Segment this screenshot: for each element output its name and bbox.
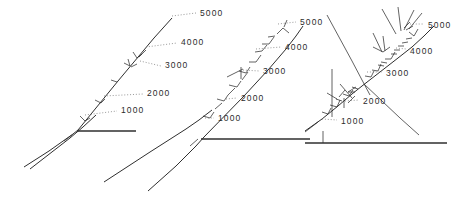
panel-1-label-3000: 3000 bbox=[165, 60, 188, 70]
panel-3-label-2000: 2000 bbox=[363, 96, 386, 106]
panel-1-label-5000: 5000 bbox=[200, 8, 223, 18]
figure-canvas: 5000 4000 3000 2000 1000 5000 4000 3000 … bbox=[0, 0, 457, 203]
panel-1-label-4000: 4000 bbox=[181, 37, 204, 47]
panel-1-label-1000: 1000 bbox=[121, 105, 144, 115]
panel-3-label-3000: 3000 bbox=[386, 68, 409, 78]
panel-2-label-5000: 5000 bbox=[300, 17, 323, 27]
panel-2-label-2000: 2000 bbox=[241, 93, 264, 103]
panel-3-label-4000: 4000 bbox=[410, 46, 433, 56]
panel-3-graphics bbox=[305, 7, 447, 143]
panel-3-label-5000: 5000 bbox=[428, 20, 451, 30]
panel-1-label-2000: 2000 bbox=[147, 88, 170, 98]
panel-2-label-1000: 1000 bbox=[218, 113, 241, 123]
panel-2-label-4000: 4000 bbox=[285, 42, 308, 52]
line-drawing bbox=[0, 0, 457, 203]
panel-3-label-1000: 1000 bbox=[341, 116, 364, 126]
panel-2-label-3000: 3000 bbox=[263, 66, 286, 76]
